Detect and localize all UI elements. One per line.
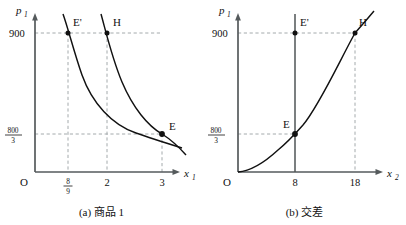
panel-b-caption: (b) 交差: [203, 203, 406, 219]
point-h: [353, 31, 358, 36]
xtick-18: 18: [350, 177, 361, 188]
x-axis-arrow-icon: [173, 169, 181, 175]
label-point-e: E: [169, 120, 176, 132]
point-e: [159, 131, 165, 137]
x-axis-arrow-icon: [376, 169, 384, 175]
y-axis-label-subscript: 1: [24, 10, 28, 19]
x-axis-label-subscript: 2: [395, 173, 399, 182]
x-axis-label: x: [386, 167, 392, 179]
xtick-2: 2: [104, 177, 109, 188]
panel-b-cross-chart: E' E H p 1 x 2 O 900 800 3 8 18 (b) 交差: [203, 0, 406, 225]
ytick-900: 900: [212, 28, 228, 39]
origin-label: O: [20, 176, 28, 188]
y-axis-arrow-icon: [32, 13, 38, 21]
xtick-3: 3: [159, 177, 164, 188]
svg-text:800: 800: [210, 126, 221, 135]
panel-b-guidelines: [238, 33, 355, 172]
panel-b-svg: E' E H p 1 x 2 O 900 800 3 8 18: [203, 0, 406, 203]
svg-text:3: 3: [11, 136, 15, 145]
y-axis-label-subscript: 1: [227, 10, 231, 19]
curve-marshallian: [101, 14, 186, 155]
xtick-8-over-9: 8 9: [64, 177, 73, 196]
curve-cross-demand: [238, 11, 374, 172]
label-point-h: H: [359, 16, 367, 28]
ytick-900: 900: [9, 28, 25, 39]
panel-b-axes: [235, 13, 383, 175]
x-axis-label-subscript: 1: [192, 173, 196, 182]
origin-label: O: [223, 176, 231, 188]
label-point-h: H: [113, 16, 121, 28]
x-axis-label: x: [183, 167, 189, 179]
figure-container: E' H E p 1 x 1 O 900 800 3 8 9 2: [0, 0, 406, 225]
y-axis-arrow-icon: [235, 13, 241, 21]
svg-text:8: 8: [66, 177, 70, 186]
panel-a-svg: E' H E p 1 x 1 O 900 800 3 8 9 2: [0, 0, 203, 203]
svg-text:9: 9: [66, 187, 70, 196]
ytick-800-over-3: 800 3: [208, 126, 225, 145]
ytick-800-over-3: 800 3: [5, 126, 22, 145]
svg-text:800: 800: [7, 126, 18, 135]
point-e-prime: [66, 31, 71, 36]
point-e: [292, 131, 298, 137]
y-axis-label: p: [218, 4, 225, 16]
y-axis-label: p: [15, 4, 22, 16]
label-point-e-prime: E': [73, 16, 82, 28]
curve-hicksian: [63, 14, 182, 148]
panel-a-caption: (a) 商品 1: [0, 203, 203, 219]
xtick-8: 8: [292, 177, 297, 188]
panel-a-points: [66, 31, 165, 137]
panel-a-demand-chart: E' H E p 1 x 1 O 900 800 3 8 9 2: [0, 0, 203, 225]
panel-a-guidelines: [35, 33, 162, 172]
point-e-prime: [293, 31, 298, 36]
point-h: [105, 31, 110, 36]
svg-text:3: 3: [214, 136, 218, 145]
label-point-e: E: [283, 118, 290, 130]
panel-a-axes: [32, 13, 180, 175]
label-point-e-prime: E': [300, 16, 309, 28]
